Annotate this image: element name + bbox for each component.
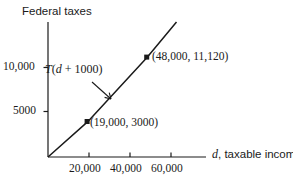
data-point-marker-upper	[144, 55, 149, 60]
x-tick-label-20000: 20,000	[69, 163, 101, 175]
data-point-label-lower: (19,000, 3000)	[90, 117, 158, 129]
x-axis-title: d, taxable income	[212, 148, 293, 161]
x-axis-title-text: , taxable income	[218, 148, 293, 160]
chart-figure: Federal taxes 10,000 5000 20,000 40,000 …	[0, 0, 293, 187]
function-operator: +	[65, 62, 72, 76]
function-argument: d	[56, 62, 62, 76]
y-tick-label-10000: 10,000	[3, 61, 35, 73]
data-point-marker-lower	[85, 119, 90, 124]
tax-curve	[48, 22, 177, 157]
y-axis-title: Federal taxes	[22, 6, 92, 18]
curve-annotation-label: T(d + 1000)	[45, 63, 102, 75]
x-tick-label-40000: 40,000	[110, 163, 142, 175]
y-tick-label-5000: 5000	[13, 105, 36, 117]
function-name: T	[45, 62, 52, 76]
data-point-label-upper: (48,000, 11,120)	[152, 51, 228, 63]
function-constant: 1000	[74, 62, 98, 76]
annotation-arrow-shaft	[92, 82, 111, 99]
x-tick-label-60000: 60,000	[151, 163, 183, 175]
